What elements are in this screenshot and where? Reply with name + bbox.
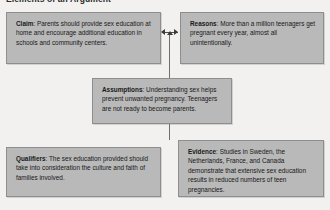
evidence-label: Evidence (188, 148, 216, 155)
assumptions-box: Assumptions: Understanding sex helps pre… (92, 78, 232, 124)
claim-text: Parents should provide sex education at … (16, 20, 151, 46)
diagram-title-cropped: Elements of an Argument (6, 0, 206, 4)
assumptions-label: Assumptions (102, 86, 142, 93)
arrow-left-icon (161, 29, 165, 35)
claim-box: Claim: Parents should provide sex educat… (6, 12, 161, 64)
assumptions-connector-line (169, 34, 170, 78)
evidence-box: Evidence: Studies in Sweden, the Netherl… (178, 140, 324, 197)
qualifiers-label: Qualifiers (16, 155, 45, 162)
assumptions-evidence-connector-line (169, 124, 170, 140)
arrow-up-icon (167, 31, 173, 35)
reasons-box: Reasons: More than a million teenagers g… (180, 12, 324, 64)
argument-diagram-canvas: Elements of an Argument Claim: Parents s… (0, 0, 330, 210)
claim-label: Claim (16, 20, 33, 27)
page-title: Elements of an Argument (6, 0, 206, 4)
qualifiers-box: Qualifiers: The sex education provided s… (6, 147, 161, 197)
arrow-right-icon (174, 29, 178, 35)
reasons-label: Reasons (190, 20, 217, 27)
